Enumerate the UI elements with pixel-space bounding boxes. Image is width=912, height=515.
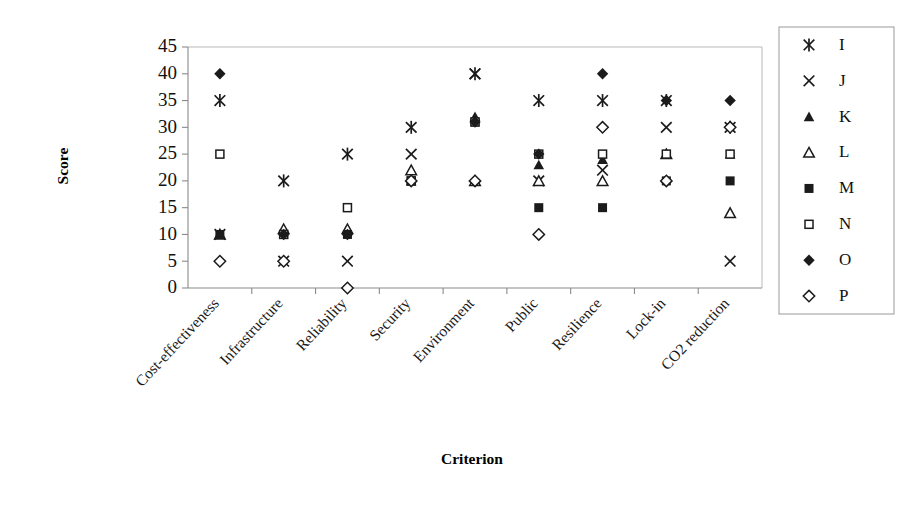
y-tick-label: 15 [158, 196, 177, 217]
y-tick-label: 20 [158, 169, 177, 190]
y-tick-label: 0 [168, 276, 178, 297]
data-point-I-3 [406, 121, 417, 134]
data-point-M-6 [598, 203, 607, 212]
series-P [214, 122, 736, 294]
data-point-J-3 [406, 149, 417, 160]
data-point-N-6 [599, 150, 607, 158]
axes-group [188, 47, 762, 288]
x-tick-labels: Cost-effectivenessInfrastructureReliabil… [132, 294, 733, 390]
data-point-N-2 [343, 204, 351, 212]
data-point-P-6 [597, 122, 608, 133]
x-axis-ticks [252, 288, 698, 294]
legend-item-label: J [839, 71, 846, 90]
x-tick-label: Infrastructure [216, 294, 286, 367]
diamond-open-icon [214, 256, 225, 267]
legend-item-label: O [839, 250, 851, 269]
data-point-N-0 [216, 150, 224, 158]
data-point-I-5 [533, 94, 544, 107]
data-point-I-1 [278, 174, 289, 187]
y-tick-label: 45 [158, 35, 177, 56]
data-points-group [214, 67, 736, 293]
y-tick-label: 5 [168, 250, 178, 271]
data-point-J-2 [342, 256, 353, 267]
square-filled-icon [598, 203, 607, 212]
diamond-filled-icon [597, 68, 608, 79]
data-point-J-8 [725, 256, 736, 267]
x-tick-label: Lock-in [623, 294, 669, 342]
legend: IJKLMNOP [779, 27, 894, 314]
series-L [215, 149, 736, 239]
data-point-O-6 [597, 68, 608, 79]
x-tick-label: Reliability [293, 294, 350, 354]
square-filled-icon [805, 184, 814, 193]
y-tick-label: 40 [158, 62, 177, 83]
data-point-N-7 [662, 150, 670, 158]
square-open-icon [662, 150, 670, 158]
legend-item-label: P [839, 286, 848, 305]
data-point-K-5 [533, 160, 544, 170]
data-point-M-5 [534, 203, 543, 212]
x-tick-label: Security [366, 294, 414, 344]
square-open-icon [216, 150, 224, 158]
triangle-open-icon [406, 165, 417, 175]
square-open-icon [726, 150, 734, 158]
marker-square-filled [805, 184, 814, 193]
legend-item-label: L [839, 142, 849, 161]
marker-square-open [805, 220, 813, 228]
x-tick-label: Resilience [548, 294, 605, 353]
x-tick-label: Public [502, 294, 542, 335]
diamond-filled-icon [724, 95, 735, 106]
square-filled-icon [726, 176, 735, 185]
legend-item-label: K [839, 107, 852, 126]
data-point-L-8 [725, 208, 736, 218]
x-tick-label: Environment [410, 294, 478, 365]
data-point-P-2 [342, 282, 353, 293]
data-point-J-6 [597, 165, 608, 176]
triangle-open-icon [597, 176, 608, 186]
legend-border [779, 27, 894, 314]
square-open-icon [599, 150, 607, 158]
triangle-filled-icon [533, 160, 544, 170]
square-filled-icon [215, 230, 224, 239]
data-point-I-6 [597, 94, 608, 107]
y-axis-ticks: 051015202530354045 [158, 35, 188, 297]
square-open-icon [805, 220, 813, 228]
x-axis-title: Criterion [441, 450, 503, 467]
x-tick-label: CO2 reduction [657, 294, 732, 373]
triangle-open-icon [725, 208, 736, 218]
data-point-P-5 [533, 229, 544, 240]
legend-item-label: I [839, 35, 845, 54]
data-point-L-6 [597, 176, 608, 186]
data-point-P-0 [214, 256, 225, 267]
diamond-filled-icon [214, 68, 225, 79]
y-tick-label: 25 [158, 142, 177, 163]
data-point-I-0 [215, 94, 226, 107]
legend-item-label: M [839, 178, 854, 197]
scatter-chart: 051015202530354045Cost-effectivenessInfr… [0, 0, 912, 515]
square-open-icon [343, 204, 351, 212]
data-point-M-0 [215, 230, 224, 239]
square-filled-icon [534, 203, 543, 212]
y-tick-label: 35 [158, 89, 177, 110]
data-point-N-8 [726, 150, 734, 158]
data-point-O-8 [724, 95, 735, 106]
chart-canvas: 051015202530354045Cost-effectivenessInfr… [0, 0, 912, 515]
y-axis-title: Score [54, 148, 71, 185]
data-point-J-7 [661, 122, 672, 133]
data-point-O-0 [214, 68, 225, 79]
x-tick-label: Cost-effectiveness [132, 294, 222, 389]
y-tick-label: 30 [158, 116, 177, 137]
series-O [214, 68, 736, 240]
diamond-open-icon [342, 282, 353, 293]
diamond-open-icon [533, 229, 544, 240]
data-point-I-2 [342, 148, 353, 161]
data-point-L-3 [406, 165, 417, 175]
data-point-M-8 [726, 176, 735, 185]
y-tick-label: 10 [158, 223, 177, 244]
series-J [215, 68, 736, 266]
diamond-open-icon [597, 122, 608, 133]
legend-item-label: N [839, 214, 851, 233]
